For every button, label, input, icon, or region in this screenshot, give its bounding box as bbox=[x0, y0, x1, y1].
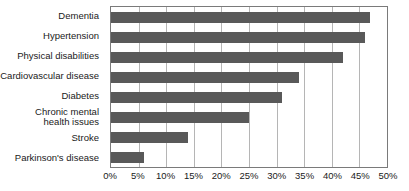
bar bbox=[111, 112, 249, 123]
category-axis: Dementia Hypertension Physical disabilit… bbox=[0, 6, 104, 168]
bar bbox=[111, 152, 144, 163]
value-tick-label: 25% bbox=[239, 170, 258, 182]
bar-slot bbox=[111, 67, 387, 87]
value-tick-label: 50% bbox=[378, 170, 397, 182]
value-axis: 0%5%10%15%20%25%30%35%40%45%50% bbox=[110, 169, 388, 185]
bars-layer bbox=[111, 7, 387, 167]
bar-chart: Dementia Hypertension Physical disabilit… bbox=[0, 0, 409, 191]
bar-slot bbox=[111, 7, 387, 27]
category-label: Diabetes bbox=[0, 87, 104, 107]
category-label: Cardiovascular disease bbox=[0, 66, 104, 86]
value-tick-label: 0% bbox=[103, 170, 117, 182]
value-tick-label: 45% bbox=[351, 170, 370, 182]
bar-slot bbox=[111, 27, 387, 47]
value-tick-label: 5% bbox=[131, 170, 145, 182]
bar bbox=[111, 32, 365, 43]
bar bbox=[111, 72, 299, 83]
bar-slot bbox=[111, 87, 387, 107]
category-label: Stroke bbox=[0, 128, 104, 148]
value-tick-label: 35% bbox=[295, 170, 314, 182]
value-tick-label: 15% bbox=[184, 170, 203, 182]
category-label: Physical disabilities bbox=[0, 46, 104, 66]
plot-area bbox=[110, 6, 388, 168]
bar bbox=[111, 12, 370, 23]
bar-slot bbox=[111, 147, 387, 167]
category-label: Hypertension bbox=[0, 26, 104, 46]
bar-slot bbox=[111, 127, 387, 147]
category-label: Parkinson's disease bbox=[0, 148, 104, 168]
value-tick-label: 10% bbox=[156, 170, 175, 182]
category-label: Dementia bbox=[0, 6, 104, 26]
bar-slot bbox=[111, 107, 387, 127]
value-tick-label: 40% bbox=[323, 170, 342, 182]
value-tick-label: 20% bbox=[212, 170, 231, 182]
bar bbox=[111, 92, 282, 103]
category-label: Chronic mental health issues bbox=[0, 107, 104, 128]
value-tick-label: 30% bbox=[267, 170, 286, 182]
bar-slot bbox=[111, 47, 387, 67]
bar bbox=[111, 132, 188, 143]
bar bbox=[111, 52, 343, 63]
